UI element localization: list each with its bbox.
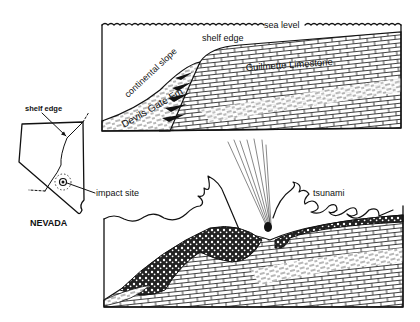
map-label-shelf-edge: shelf edge xyxy=(25,104,62,113)
bottom-cross-section: tsunami xyxy=(104,139,403,307)
label-shelf-edge: shelf edge xyxy=(202,33,244,43)
guilmette-limestone-body xyxy=(160,32,401,131)
impact-site-marker-icon xyxy=(55,174,71,190)
map-label-impact-site: impact site xyxy=(96,188,139,198)
map-label-nevada: NEVADA xyxy=(30,218,68,228)
label-sea-level: sea level xyxy=(264,20,300,30)
sea-level-line xyxy=(102,24,264,26)
top-cross-section: sea level shelf edge Guilmette Limestone… xyxy=(102,20,401,131)
nevada-outline xyxy=(19,122,84,214)
diagram-canvas: sea level shelf edge Guilmette Limestone… xyxy=(0,0,420,322)
label-tsunami: tsunami xyxy=(313,188,345,198)
